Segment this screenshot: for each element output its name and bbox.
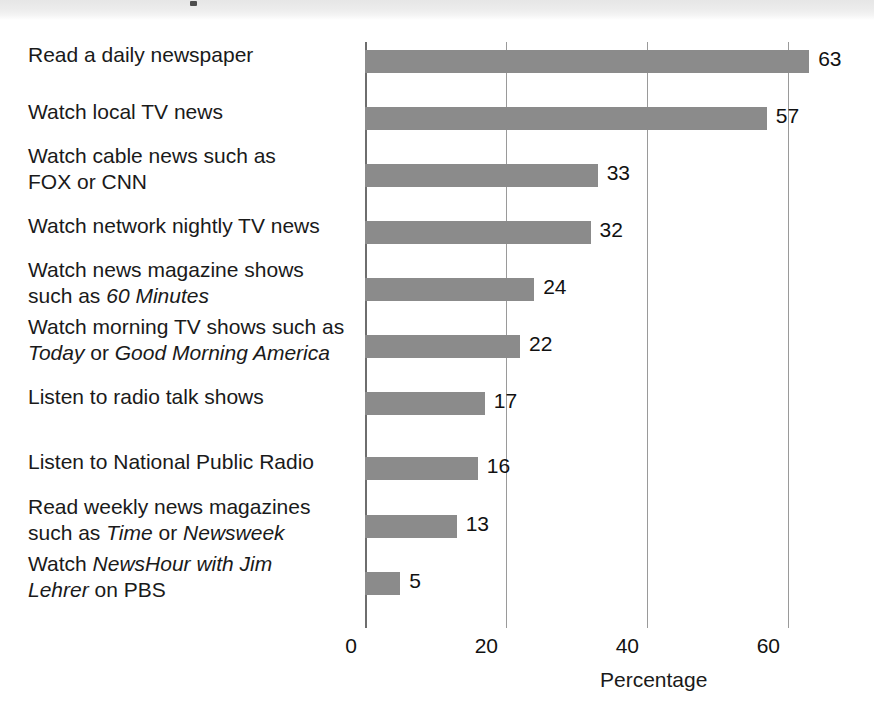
category-label: Watch local TV news [28, 99, 358, 125]
bar[interactable] [365, 278, 534, 301]
bar-value-label: 5 [409, 569, 421, 593]
bar-value-label: 32 [600, 218, 623, 242]
category-label: Watch cable news such asFOX or CNN [28, 143, 358, 195]
x-tick-label: 0 [299, 634, 357, 658]
bar[interactable] [365, 572, 400, 595]
category-label: Listen to radio talk shows [28, 384, 358, 410]
bar-value-label: 17 [494, 389, 517, 413]
bar[interactable] [365, 335, 520, 358]
bar[interactable] [365, 50, 809, 73]
bar-value-label: 33 [607, 161, 630, 185]
category-label: Watch morning TV shows such asToday or G… [28, 314, 358, 366]
bar-value-label: 63 [818, 47, 841, 71]
bar-chart-figure: Read a daily newspaperWatch local TV new… [0, 0, 874, 722]
bar[interactable] [365, 392, 485, 415]
x-axis-title: Percentage [600, 668, 707, 692]
category-label: Watch news magazine showssuch as 60 Minu… [28, 257, 358, 309]
category-label: Watch NewsHour with JimLehrer on PBS [28, 551, 358, 603]
bar-value-label: 13 [466, 512, 489, 536]
bar[interactable] [365, 164, 598, 187]
x-tick-label: 20 [440, 634, 498, 658]
category-label: Read a daily newspaper [28, 42, 358, 68]
bar[interactable] [365, 107, 767, 130]
category-label: Listen to National Public Radio [28, 449, 358, 475]
bar-value-label: 57 [776, 104, 799, 128]
category-label: Read weekly news magazinessuch as Time o… [28, 494, 358, 546]
bar-value-label: 24 [543, 275, 566, 299]
bar[interactable] [365, 515, 457, 538]
bar-value-label: 16 [487, 454, 510, 478]
bar[interactable] [365, 457, 478, 480]
scan-artifact-band [0, 0, 874, 20]
x-tick-label: 60 [722, 634, 780, 658]
plot-area: 6357333224221716135 0204060 [365, 42, 788, 628]
bar[interactable] [365, 221, 591, 244]
bar-value-label: 22 [529, 332, 552, 356]
x-tick-label: 40 [581, 634, 639, 658]
category-label: Watch network nightly TV news [28, 213, 358, 239]
gridline [788, 42, 789, 628]
